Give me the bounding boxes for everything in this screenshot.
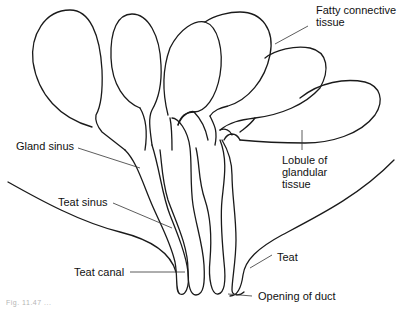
diagram-drawing [0, 0, 400, 310]
duct-branches [170, 112, 255, 150]
lobule-3 [164, 22, 221, 125]
label-opening-of-duct: Opening of duct [258, 290, 336, 302]
mammary-gland-diagram: Fatty connective tissue Gland sinus Lobu… [0, 0, 400, 310]
label-gland-sinus: Gland sinus [16, 140, 74, 152]
figure-caption: Fig. 11.47 ... [6, 299, 51, 306]
label-teat: Teat [277, 251, 298, 263]
lobule-2 [111, 14, 161, 145]
label-fatty-connective-tissue: Fatty connective tissue [316, 4, 396, 28]
lobule-5 [220, 47, 326, 130]
duct-channel-3 [196, 140, 225, 294]
label-teat-canal: Teat canal [74, 266, 124, 278]
leader-teat [250, 255, 272, 268]
lobule-6 [240, 81, 380, 143]
lobule-1 [33, 10, 125, 150]
leader-teat-sinus [113, 203, 172, 228]
label-teat-sinus: Teat sinus [58, 196, 108, 208]
label-lobule-of-glandular-tissue: Lobule of glandular tissue [282, 154, 327, 190]
leader-fatty-tissue [275, 26, 308, 44]
lobule-2-duct [140, 108, 146, 150]
lobule-4 [205, 12, 271, 116]
